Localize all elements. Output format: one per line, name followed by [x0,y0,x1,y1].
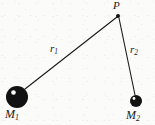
mass-2-label: M2 [126,109,140,123]
distance-r1-label: r1 [50,43,58,56]
distance-r1-subscript: 1 [54,48,58,56]
mass-1-body [6,86,28,108]
mass-2-highlight-icon [133,97,136,100]
physics-figure-two-masses: P r1 r2 M1 M2 [0,0,155,125]
segment-r1 [25,17,117,89]
mass-1-label: M1 [5,108,19,122]
mass-2-base: M [126,108,136,122]
distance-r2-label: r2 [130,44,138,57]
mass-2-body [130,95,142,107]
distance-r2-subscript: 2 [134,49,138,57]
mass-1-base: M [5,107,15,121]
point-p-label-text: P [113,0,120,11]
mass-1-highlight-icon [11,90,16,95]
mass-1-subscript: 1 [15,113,19,122]
mass-2-subscript: 2 [136,114,140,123]
point-p-marker [116,14,120,18]
point-p-label: P [113,0,120,11]
figure-canvas [0,0,155,125]
